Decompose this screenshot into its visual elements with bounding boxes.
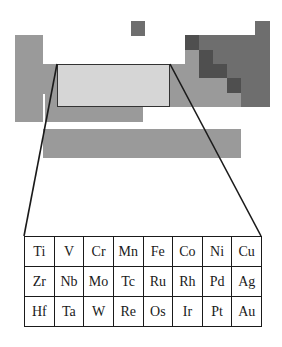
helium-cell <box>255 21 270 35</box>
metalloid-ge-as <box>199 64 227 78</box>
element-cell: Pt <box>202 297 232 327</box>
element-cell: Fe <box>143 237 173 267</box>
metalloid-boron <box>185 35 199 50</box>
element-cell: Nb <box>54 267 84 297</box>
element-cell: Ag <box>232 267 262 297</box>
highlighted-transition-metals <box>57 64 170 107</box>
table-row-period-6: Hf Ta W Re Os Ir Pt Au <box>25 297 262 327</box>
element-cell: Au <box>232 297 262 327</box>
element-cell: Mn <box>113 237 143 267</box>
element-cell: Ti <box>25 237 55 267</box>
element-cell: Hf <box>25 297 55 327</box>
p-block-nonmetals-lower <box>241 78 270 107</box>
d-block-group-12 <box>170 64 185 107</box>
element-cell: Ru <box>143 267 173 297</box>
table-row-period-5: Zr Nb Mo Tc Ru Rh Pd Ag <box>25 267 262 297</box>
element-cell: Cu <box>232 237 262 267</box>
s-block-group-1 <box>15 35 43 122</box>
metalloid-sb-te <box>227 78 241 93</box>
element-cell: Re <box>113 297 143 327</box>
f-block-strip <box>43 129 241 158</box>
s-block-divider <box>43 94 45 122</box>
element-cell: Cr <box>84 237 114 267</box>
table-row-period-4: Ti V Cr Mn Fe Co Ni Cu <box>25 237 262 267</box>
element-cell: Rh <box>173 267 203 297</box>
p-block-nonmetals-row-4 <box>227 64 270 78</box>
metalloid-silicon <box>199 50 213 64</box>
element-cell: Ta <box>54 297 84 327</box>
hydrogen-cell <box>131 21 145 36</box>
p-block-nonmetals-row-2 <box>199 35 270 50</box>
element-cell: Os <box>143 297 173 327</box>
element-cell: Co <box>173 237 203 267</box>
element-cell: Tc <box>113 267 143 297</box>
transition-metal-table: Ti V Cr Mn Fe Co Ni Cu Zr Nb Mo Tc Ru Rh… <box>24 236 262 327</box>
p-block-nonmetals-row-3 <box>213 50 270 64</box>
element-cell: Ir <box>173 297 203 327</box>
element-cell: W <box>84 297 114 327</box>
element-cell: V <box>54 237 84 267</box>
element-cell: Zr <box>25 267 55 297</box>
element-cell: Ni <box>202 237 232 267</box>
element-cell: Pd <box>202 267 232 297</box>
period-7-d-block <box>43 107 143 122</box>
element-cell: Mo <box>84 267 114 297</box>
